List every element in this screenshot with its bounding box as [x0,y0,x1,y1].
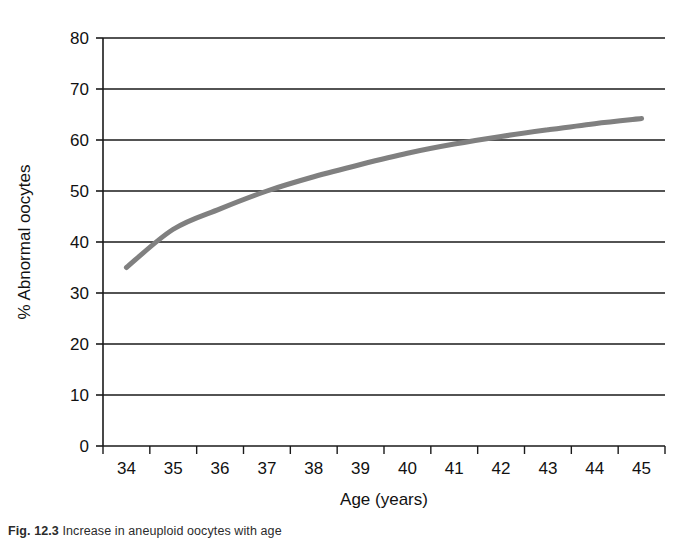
x-tick-label: 44 [585,459,604,478]
x-tick-label: 36 [211,459,230,478]
figure-caption-label: Fig. 12.3 [8,524,59,538]
x-tick-label: 37 [257,459,276,478]
figure-caption: Fig. 12.3 Increase in aneuploid oocytes … [8,524,282,538]
x-tick-label: 38 [304,459,323,478]
x-tick-labels-group: 343536373839404142434445 [117,459,651,478]
y-tick-label: 60 [70,131,89,150]
y-tick-label: 0 [80,437,89,456]
y-tick-label: 20 [70,335,89,354]
x-axis-title: Age (years) [340,490,428,509]
x-tick-marks-group [103,446,665,454]
x-tick-label: 34 [117,459,136,478]
x-tick-label: 41 [445,459,464,478]
x-tick-label: 43 [538,459,557,478]
y-tick-label: 40 [70,233,89,252]
x-tick-label: 42 [492,459,511,478]
abnormal-oocytes-line-chart: 01020304050607080 3435363738394041424344… [0,0,688,542]
y-tick-label: 30 [70,284,89,303]
y-tick-labels-group: 01020304050607080 [70,29,89,456]
x-tick-label: 40 [398,459,417,478]
x-tick-label: 35 [164,459,183,478]
y-tick-marks-group [96,38,103,446]
gridlines-group [103,38,665,395]
y-tick-label: 10 [70,386,89,405]
y-tick-label: 50 [70,182,89,201]
x-tick-label: 39 [351,459,370,478]
y-tick-label: 80 [70,29,89,48]
y-axis-title: % Abnormal oocytes [15,165,34,320]
x-tick-label: 45 [632,459,651,478]
data-series-line [126,119,641,268]
figure-caption-text: Increase in aneuploid oocytes with age [63,524,282,538]
y-tick-label: 70 [70,80,89,99]
figure-container: 01020304050607080 3435363738394041424344… [0,0,688,542]
